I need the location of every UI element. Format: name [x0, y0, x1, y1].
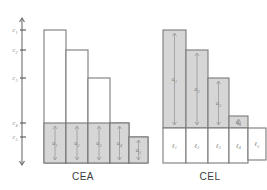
- panel-caption-cea: CEA: [72, 171, 94, 182]
- axis-tick-label-c3: c3: [12, 74, 17, 83]
- axis-tick-label-c1: c1: [12, 26, 17, 35]
- figure-container: c1c2c3c4c5a1a2a3a4a5CEAa1ℓ1a2ℓ2a3ℓ3a4ℓ4ℓ…: [0, 0, 267, 190]
- axis-tick-label-c5: c5: [12, 133, 18, 142]
- axis-tick-label-c4: c4: [12, 119, 18, 128]
- cea-cel-diagram: c1c2c3c4c5a1a2a3a4a5CEAa1ℓ1a2ℓ2a3ℓ3a4ℓ4ℓ…: [0, 0, 267, 190]
- axis-tick-label-c2: c2: [12, 46, 18, 55]
- panel-caption-cel: CEL: [200, 171, 221, 182]
